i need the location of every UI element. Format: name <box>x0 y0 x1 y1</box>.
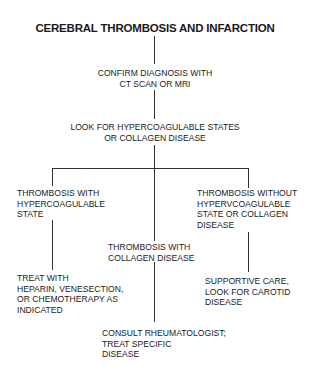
node-look-for-hypercoagulable: LOOK FOR HYPERCOAGULABLE STATES OR COLLA… <box>0 122 310 143</box>
connector-collagen-consult <box>154 262 155 322</box>
connector-look-collagen <box>154 145 155 241</box>
connector-without-supportive <box>248 232 249 272</box>
connector-branch-left <box>52 168 53 186</box>
node-treat-heparin: TREAT WITH HEPARIN, VENESECTION, OR CHEM… <box>17 273 123 315</box>
node-confirm-diagnosis: CONFIRM DIAGNOSIS WITH CT SCAN OR MRI <box>0 68 310 89</box>
node-consult-rheumatologist: CONSULT RHEUMATOLOGIST; TREAT SPECIFIC D… <box>102 328 226 360</box>
connector-branch-horizontal <box>52 168 249 169</box>
node-thrombosis-hypercoagulable: THROMBOSIS WITH HYPERCOAGULABLE STATE <box>17 188 105 220</box>
node-thrombosis-without: THROMBOSIS WITHOUT HYPERVCOAGULABLE STAT… <box>197 188 297 230</box>
connector-title-confirm <box>154 36 155 64</box>
node-supportive-care: SUPPORTIVE CARE, LOOK FOR CAROTID DISEAS… <box>205 276 290 308</box>
connector-confirm-look <box>154 90 155 119</box>
connector-branch-right <box>248 168 249 188</box>
diagram-title: CEREBRAL THROMBOSIS AND INFARCTION <box>0 22 310 34</box>
connector-hypercoag-treat <box>52 220 53 270</box>
node-thrombosis-collagen: THROMBOSIS WITH COLLAGEN DISEASE <box>108 242 194 263</box>
